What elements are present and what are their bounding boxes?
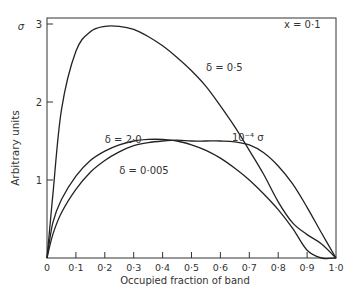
y-tick-label: 1 — [36, 175, 42, 186]
annotation-2: δ = 2·0 — [105, 134, 142, 145]
series-line-2 — [47, 140, 336, 258]
annotations: x = 0·1δ = 0·5δ = 2·0δ = 0·00510⁻⁴ σ — [105, 19, 321, 176]
series-line-0 — [47, 26, 336, 258]
x-tick-label: 0·3 — [126, 262, 141, 273]
y-tick-label: 2 — [36, 97, 42, 108]
x-tick-label: 0·1 — [68, 262, 83, 273]
x-axis-ticks: 00·10·20·30·40·50·60·70·80·91·0 — [44, 252, 344, 273]
x-tick-label: 0·2 — [97, 262, 112, 273]
x-tick-label: 0·8 — [271, 262, 286, 273]
annotation-3: δ = 0·005 — [119, 165, 168, 176]
annotation-1: δ = 0·5 — [206, 62, 243, 73]
x-axis-label: Occupied fraction of band — [120, 275, 250, 286]
x-tick-label: 0·4 — [155, 262, 170, 273]
y-axis-symbol: σ — [18, 21, 25, 32]
y-tick-label: 3 — [36, 19, 42, 30]
y-axis-label: Arbitrary units — [9, 110, 21, 186]
annotation-0: x = 0·1 — [284, 19, 321, 30]
annotation-4: 10⁻⁴ σ — [232, 132, 264, 143]
x-tick-label: 0·7 — [242, 262, 257, 273]
chart: 00·10·20·30·40·50·60·70·80·91·0 123 x = … — [0, 0, 360, 296]
x-tick-label: 0·5 — [184, 262, 199, 273]
y-axis-ticks: 123 — [36, 19, 53, 186]
x-tick-label: 0·9 — [300, 262, 315, 273]
x-tick-label: 0 — [44, 262, 50, 273]
series-line-1 — [47, 139, 336, 258]
x-tick-label: 1·0 — [328, 262, 343, 273]
series-lines — [47, 26, 336, 259]
x-tick-label: 0·6 — [213, 262, 228, 273]
